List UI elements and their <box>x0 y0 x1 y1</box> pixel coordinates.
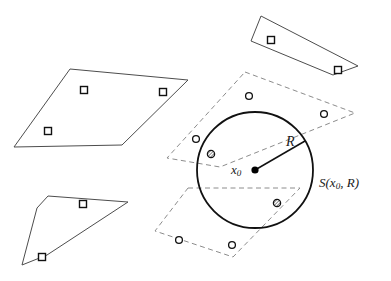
radius-label: R <box>286 134 295 150</box>
square-marker <box>335 67 342 74</box>
open-circle-marker <box>321 111 328 118</box>
upper-dashed-quadrilateral <box>167 72 355 167</box>
square-marker <box>268 37 275 44</box>
dashed-polygon-group <box>155 72 355 257</box>
ball-label-center-sub: 0 <box>336 181 341 191</box>
hatched-circle-marker <box>273 199 280 206</box>
diagram-svg <box>0 0 391 281</box>
square-marker <box>160 89 167 96</box>
ball-label-close: ) <box>355 175 359 190</box>
square-marker <box>81 87 88 94</box>
center-label: x0 <box>231 162 241 178</box>
ball-label-radius: R <box>347 175 355 190</box>
open-circle-marker <box>176 237 183 244</box>
open-circle-marker <box>193 136 200 143</box>
radius-line <box>255 141 305 170</box>
hatched-circle-marker-group <box>207 150 280 206</box>
figure-canvas: R x0 S(x0, R) <box>0 0 391 281</box>
open-circle-marker <box>246 93 253 100</box>
ball-label-open: S( <box>319 175 330 190</box>
open-circle-marker <box>229 242 236 249</box>
square-marker <box>80 201 87 208</box>
center-label-base: x <box>231 162 237 177</box>
square-marker <box>39 254 46 261</box>
ball-center-dot <box>251 166 258 173</box>
solid-polygon-group <box>14 16 358 265</box>
ball-label-center: x <box>330 175 336 190</box>
hatched-circle-marker <box>207 150 214 157</box>
center-label-sub: 0 <box>237 168 242 178</box>
ball-set-label: S(x0, R) <box>319 175 359 191</box>
square-marker <box>45 128 52 135</box>
upper-left-quadrilateral <box>14 69 188 147</box>
